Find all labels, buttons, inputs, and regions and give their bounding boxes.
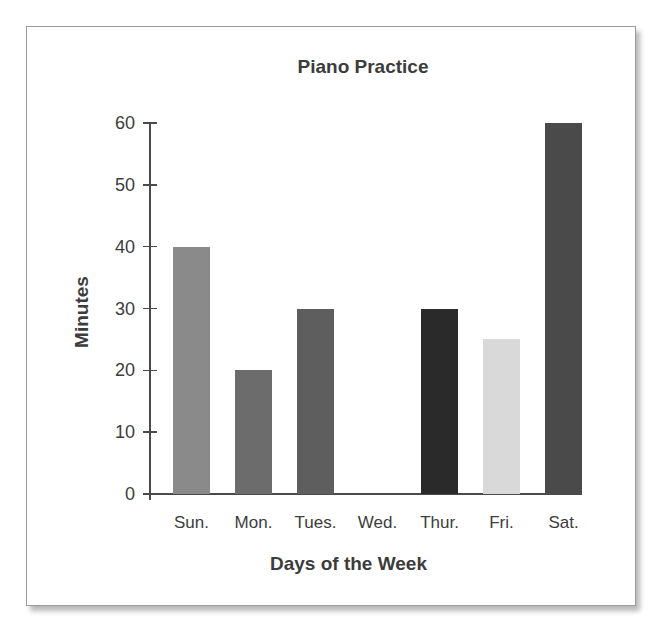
bar: [483, 339, 520, 494]
y-tick-mark: [143, 370, 157, 372]
x-category-label: Tues.: [286, 513, 346, 533]
y-tick-mark: [143, 493, 157, 495]
y-tick-mark: [143, 184, 157, 186]
x-category-label: Sun.: [162, 513, 222, 533]
bar: [421, 309, 458, 495]
y-tick-label: 40: [95, 238, 135, 256]
y-axis-label: Minutes: [71, 276, 93, 348]
x-category-label: Sat.: [534, 513, 594, 533]
y-tick-label: 30: [95, 300, 135, 318]
y-tick-label: 10: [95, 423, 135, 441]
x-category-label: Mon.: [224, 513, 284, 533]
x-category-label: Thur.: [410, 513, 470, 533]
bar: [297, 309, 334, 495]
y-tick-mark: [143, 308, 157, 310]
bar: [235, 370, 272, 494]
y-tick-label: 20: [95, 361, 135, 379]
y-tick-mark: [143, 431, 157, 433]
bar: [545, 123, 582, 494]
y-tick-mark: [143, 246, 157, 248]
y-tick-label: 50: [95, 176, 135, 194]
chart-title: Piano Practice: [0, 56, 659, 78]
y-tick-label: 60: [95, 114, 135, 132]
y-tick-label: 0: [95, 485, 135, 503]
y-axis: [149, 122, 151, 500]
y-tick-mark: [143, 122, 157, 124]
bar: [173, 247, 210, 494]
x-category-label: Fri.: [472, 513, 532, 533]
x-category-label: Wed.: [348, 513, 408, 533]
x-axis-label: Days of the Week: [270, 553, 427, 575]
